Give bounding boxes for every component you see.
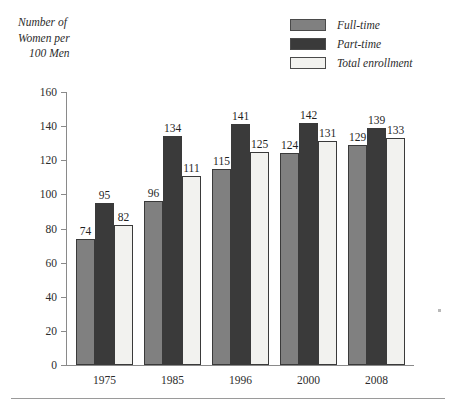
bottom-divider xyxy=(11,398,445,399)
x-axis-label: 2008 xyxy=(348,374,405,386)
y-tick-label: 100 xyxy=(40,188,57,200)
y-tick-mark xyxy=(61,92,66,93)
bar-value-label: 131 xyxy=(319,127,336,139)
y-tick-label: 160 xyxy=(40,86,57,98)
y-tick-mark xyxy=(61,194,66,195)
bar-group: 96134111 xyxy=(144,92,201,365)
legend-item-label: Part-time xyxy=(337,38,381,50)
bar-group: 115141125 xyxy=(212,92,269,365)
plot-area: 020406080100120140160 749582961341111151… xyxy=(66,92,414,366)
y-tick-mark xyxy=(61,160,66,161)
legend-item-label: Full-time xyxy=(337,19,380,31)
bar-group: 749582 xyxy=(76,92,133,365)
x-axis-label: 1975 xyxy=(76,374,133,386)
bar-value-label: 133 xyxy=(387,124,404,136)
y-tick-mark xyxy=(61,365,66,366)
bar: 131 xyxy=(318,141,337,365)
bar-value-label: 124 xyxy=(281,139,298,151)
bar: 96 xyxy=(144,201,163,365)
bar: 115 xyxy=(212,169,231,365)
bar: 134 xyxy=(163,136,182,365)
legend-item: Total enrollment xyxy=(290,54,413,71)
legend-item: Part-time xyxy=(290,35,413,52)
y-tick-label: 120 xyxy=(40,154,57,166)
bar-value-label: 125 xyxy=(251,138,268,150)
bar: 142 xyxy=(299,123,318,365)
bar: 139 xyxy=(367,128,386,365)
y-tick-label: 80 xyxy=(46,223,58,235)
bar-value-label: 115 xyxy=(213,155,230,167)
y-tick-label: 20 xyxy=(46,325,58,337)
bar-value-label: 134 xyxy=(164,122,181,134)
x-axis-label: 2000 xyxy=(280,374,337,386)
y-axis-title-line2: Women per xyxy=(18,31,123,47)
bar-value-label: 142 xyxy=(300,109,317,121)
bar-value-label: 139 xyxy=(368,114,385,126)
legend-swatch-icon xyxy=(290,38,326,50)
bar-value-label: 95 xyxy=(99,189,111,201)
bar: 129 xyxy=(348,145,367,365)
bar: 125 xyxy=(250,152,269,365)
bar: 141 xyxy=(231,124,250,365)
y-tick-label: 140 xyxy=(40,120,57,132)
y-tick-mark xyxy=(61,297,66,298)
x-axis-label: 1985 xyxy=(144,374,201,386)
y-tick-label: 60 xyxy=(46,257,58,269)
legend-item-label: Total enrollment xyxy=(337,57,413,69)
chart-page: Number of Women per 100 Men Full-timePar… xyxy=(0,0,455,416)
bar-value-label: 82 xyxy=(118,211,130,223)
y-tick-mark xyxy=(61,229,66,230)
bar-value-label: 111 xyxy=(183,162,199,174)
bar-value-label: 129 xyxy=(349,131,366,143)
legend-swatch-icon xyxy=(290,19,326,31)
y-axis-title-line1: Number of xyxy=(18,15,123,31)
y-tick-label: 40 xyxy=(46,291,58,303)
bar: 133 xyxy=(386,138,405,365)
x-axis-label: 1996 xyxy=(212,374,269,386)
chart-legend: Full-timePart-timeTotal enrollment xyxy=(290,16,413,73)
y-axis-line xyxy=(66,92,67,366)
bar: 82 xyxy=(114,225,133,365)
legend-swatch-icon xyxy=(290,57,326,69)
y-tick-mark xyxy=(61,126,66,127)
bar-group: 124142131 xyxy=(280,92,337,365)
bar: 111 xyxy=(182,176,201,365)
scan-artifact-speck xyxy=(438,309,441,312)
bar: 95 xyxy=(95,203,114,365)
y-tick-mark xyxy=(61,263,66,264)
x-axis-line xyxy=(66,365,414,366)
bar-group: 129139133 xyxy=(348,92,405,365)
y-axis-title-line3: 100 Men xyxy=(18,46,123,62)
y-axis-title: Number of Women per 100 Men xyxy=(18,15,123,62)
y-tick-mark xyxy=(61,331,66,332)
bar-value-label: 141 xyxy=(232,110,249,122)
legend-item: Full-time xyxy=(290,16,413,33)
bar: 74 xyxy=(76,239,95,365)
bar: 124 xyxy=(280,153,299,365)
bar-value-label: 74 xyxy=(80,225,92,237)
y-tick-label: 0 xyxy=(51,359,57,371)
bar-value-label: 96 xyxy=(148,187,160,199)
